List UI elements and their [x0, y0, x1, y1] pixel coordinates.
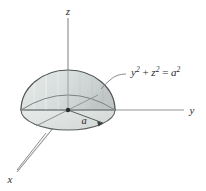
surface-equation-label: y2 + z2 = a2 — [130, 65, 181, 78]
figure-canvas: a z y x y2 + z2 = a2 — [0, 0, 206, 191]
equation-equals: = — [159, 66, 171, 78]
equation-plus: + — [140, 66, 152, 78]
origin-point — [66, 108, 70, 112]
x-axis-label: x — [7, 173, 13, 185]
x-leader — [17, 133, 46, 170]
z-axis-label: z — [65, 5, 71, 17]
radius-label: a — [81, 115, 86, 126]
y-axis-label: y — [189, 104, 195, 116]
equation-a-exponent: 2 — [177, 65, 181, 74]
hemisphere-figure: a z y x y2 + z2 = a2 — [0, 0, 206, 191]
x-leader-line — [17, 133, 46, 170]
